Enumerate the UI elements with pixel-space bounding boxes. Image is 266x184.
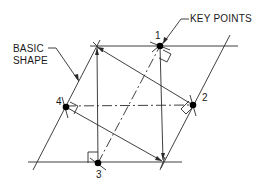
- key-point-3: [95, 160, 102, 167]
- arrowhead-diag-upper: [97, 47, 104, 52]
- arrowhead-bottom-right: [155, 156, 162, 161]
- key-point-2: [190, 102, 197, 109]
- key-point-2-label: 2: [202, 93, 208, 103]
- diagonal-upper: [97, 47, 193, 105]
- centerline-diagonal: [98, 46, 160, 163]
- key-points-label: KEY POINTS: [190, 13, 252, 24]
- key-point-4: [63, 104, 70, 111]
- diagonal-lower: [66, 107, 162, 161]
- diagram-canvas: BASIC SHAPE KEY POINTS 1 2 3 4: [0, 0, 266, 184]
- basic-shape-drawing: [0, 0, 266, 184]
- right-angle-mark-4: [70, 102, 78, 114]
- key-point-4-label: 4: [56, 97, 62, 107]
- centerline-horizontal: [66, 105, 193, 106]
- vertical-right: [160, 46, 163, 160]
- basic-shape-leader: [48, 48, 78, 80]
- basic-shape-label-line1: BASIC: [13, 43, 44, 54]
- arrowhead-basic-shape: [74, 74, 79, 82]
- right-edge: [161, 35, 230, 168]
- key-points-leader: [164, 19, 189, 42]
- key-point-1-label: 1: [155, 31, 161, 41]
- basic-shape-label-line2: SHAPE: [13, 55, 48, 66]
- key-point-3-label: 3: [96, 170, 102, 180]
- key-point-1: [157, 43, 164, 50]
